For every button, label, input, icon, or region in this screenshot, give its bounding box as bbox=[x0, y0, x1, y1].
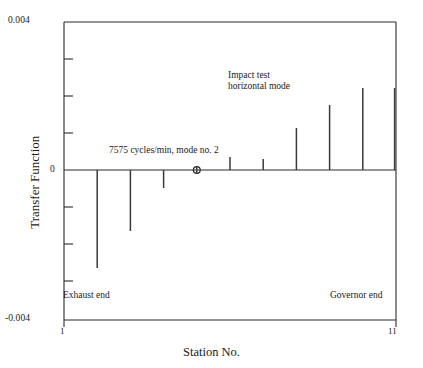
x-axis-tick-label-right: 11 bbox=[388, 326, 397, 336]
annotation-governor-end: Governor end bbox=[330, 290, 383, 301]
annotation-impact-line2: horizontal mode bbox=[228, 81, 290, 92]
y-axis-title: Transfer Function bbox=[28, 102, 43, 262]
annotation-impact-line1: Impact test bbox=[228, 70, 270, 80]
spike-series bbox=[97, 88, 394, 268]
annotation-mode-note: 7575 cycles/min, mode no. 2 bbox=[109, 145, 219, 156]
y-axis-tick-label-bottom: -0.004 bbox=[5, 313, 30, 324]
x-axis-ticks bbox=[64, 320, 396, 327]
y-axis-tick-label-top: 0.004 bbox=[8, 15, 30, 26]
chart-figure: 0.004 0 -0.004 1 11 Station No. Transfer… bbox=[0, 0, 423, 368]
y-axis-tick-label-zero: 0 bbox=[50, 164, 55, 175]
x-axis-tick-label-left: 1 bbox=[60, 326, 65, 336]
transfer-function-plot bbox=[0, 0, 423, 368]
annotation-impact-test: Impact testhorizontal mode bbox=[228, 70, 290, 91]
x-axis-title: Station No. bbox=[0, 345, 423, 359]
annotation-exhaust-end: Exhaust end bbox=[63, 290, 110, 301]
plot-frame bbox=[64, 22, 396, 320]
